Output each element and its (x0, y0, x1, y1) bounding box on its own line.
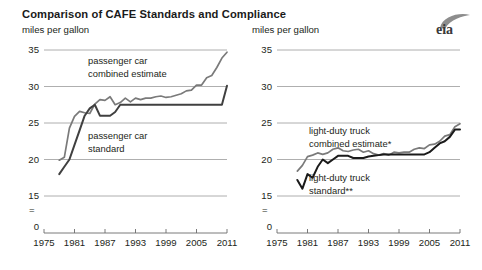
y-axis-tick-label: 25 (250, 117, 272, 128)
annotation-line-2: combined estimate* (309, 138, 391, 151)
y-axis-tick-label: 15 (250, 190, 272, 201)
figure-root: Comparison of CAFE Standards and Complia… (0, 0, 482, 270)
annotation-line-2: combined estimate (88, 68, 167, 81)
series-annotation-passenger-car-standard: passenger carstandard (88, 130, 147, 155)
x-axis-tick-label: 2005 (180, 237, 214, 248)
y-axis-tick-label: 25 (17, 117, 39, 128)
annotation-line-2: standard (88, 143, 147, 156)
y-axis-tick-label: 15 (17, 190, 39, 201)
y-axis-break-symbol: = (29, 207, 35, 213)
x-axis-tick-label: 1993 (352, 237, 386, 248)
x-axis-tick-label: 1993 (119, 237, 153, 248)
y-axis-tick-label: 35 (17, 44, 39, 55)
y-axis-tick-label: 35 (250, 44, 272, 55)
annotation-line-1: light-duty truck (309, 172, 370, 185)
x-axis-tick-label: 1987 (321, 237, 355, 248)
x-axis-tick-label: 1987 (88, 237, 122, 248)
x-axis-tick-label: 1981 (58, 237, 92, 248)
x-axis-tick-label: 1975 (27, 237, 61, 248)
y-axis-tick-label: 30 (17, 81, 39, 92)
x-axis-tick-label: 2005 (413, 237, 447, 248)
x-axis-tick-label: 2011 (443, 237, 477, 248)
x-axis-tick-label: 2011 (210, 237, 244, 248)
y-axis-tick-label: 30 (250, 81, 272, 92)
y-axis-break-symbol: = (262, 207, 268, 213)
series-annotation-passenger-car-combined-estimate: passenger carcombined estimate (88, 55, 167, 80)
series-annotation-light-duty-truck-standard: light-duty truckstandard** (309, 172, 370, 197)
x-axis-tick-label: 1999 (382, 237, 416, 248)
y-axis-tick-label: 20 (250, 154, 272, 165)
y-axis-zero-label: 0 (250, 221, 272, 232)
x-axis-tick-label: 1999 (149, 237, 183, 248)
annotation-line-1: passenger car (88, 130, 147, 143)
series-annotation-light-duty-truck-combined-estimate: light-duty truckcombined estimate* (309, 125, 391, 150)
annotation-line-1: passenger car (88, 55, 167, 68)
x-axis-tick-label: 1975 (260, 237, 294, 248)
y-axis-tick-label: 20 (17, 154, 39, 165)
y-axis-zero-label: 0 (17, 221, 39, 232)
x-axis-tick-label: 1981 (291, 237, 325, 248)
annotation-line-1: light-duty truck (309, 125, 391, 138)
annotation-line-2: standard** (309, 185, 370, 198)
